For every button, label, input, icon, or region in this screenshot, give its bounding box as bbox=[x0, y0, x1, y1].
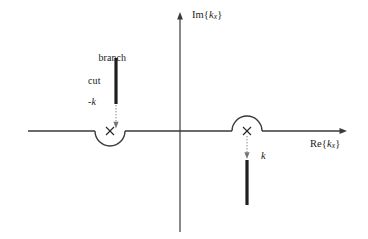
im-label-suffix: } bbox=[217, 9, 222, 20]
pole-marker-negative-k bbox=[106, 127, 114, 135]
imaginary-axis-label: Im{kx} bbox=[192, 9, 222, 22]
complex-plane-figure: branch cut -k k Im{kx} Re{kx} bbox=[0, 0, 368, 239]
real-axis-label: Re{kx} bbox=[310, 138, 340, 151]
branch-cut-lower-arrowhead-icon bbox=[244, 152, 249, 159]
contour-detour-above-positive-k bbox=[232, 116, 262, 131]
pole-marker-positive-k bbox=[243, 127, 251, 135]
semicircle-below-axis bbox=[95, 131, 125, 146]
im-label-prefix: Im{ bbox=[192, 9, 209, 20]
pole-label-positive-k: k bbox=[261, 150, 266, 162]
pole-label-negative-k: -k bbox=[88, 96, 96, 108]
real-axis-arrowhead-icon bbox=[340, 128, 348, 134]
branch-cut-annotation-line2: cut bbox=[88, 75, 126, 87]
semicircle-above-axis bbox=[232, 116, 262, 131]
branch-cut-lower bbox=[244, 136, 249, 205]
branch-cut-annotation-line1: branch bbox=[98, 52, 126, 63]
contour-detour-below-negative-k bbox=[95, 131, 125, 146]
imaginary-axis-arrowhead-icon bbox=[177, 12, 183, 20]
contour-diagram-canvas bbox=[0, 0, 368, 239]
re-label-suffix: } bbox=[335, 138, 340, 149]
imaginary-axis bbox=[177, 12, 183, 232]
re-label-prefix: Re{ bbox=[310, 138, 327, 149]
real-axis bbox=[28, 128, 347, 134]
